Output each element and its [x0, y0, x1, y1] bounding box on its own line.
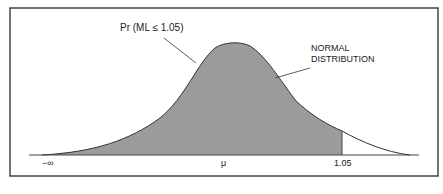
- normal-distribution-diagram: Pr (ML ≤ 1.05) NORMAL DISTRIBUTION −∞ μ …: [0, 0, 443, 194]
- axis-label-cutoff: 1.05: [334, 158, 352, 168]
- curve-label-line2: DISTRIBUTION: [311, 54, 375, 64]
- axis-label-neg-infinity: −∞: [42, 158, 54, 168]
- axis-label-mu: μ: [221, 158, 226, 168]
- curve-label-line1: NORMAL: [311, 43, 350, 53]
- probability-label: Pr (ML ≤ 1.05): [120, 22, 183, 33]
